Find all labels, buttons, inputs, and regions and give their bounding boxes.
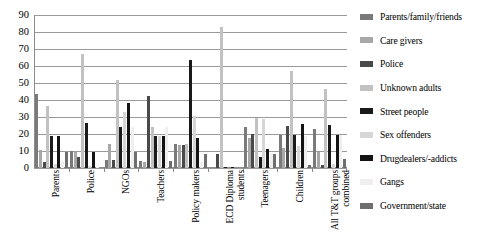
legend-label: Drugdealers/-addicts <box>380 153 457 164</box>
bar-group <box>312 15 347 168</box>
legend-swatch-icon <box>360 155 373 161</box>
x-axis-category-labels: ParentsPoliceNGOsTeachersPolicy makersEC… <box>34 168 347 251</box>
y-tick-label-10: 10 <box>19 146 30 156</box>
x-label-cell: Parents <box>34 168 69 251</box>
x-label-cell: Children <box>277 168 312 251</box>
legend-swatch-icon <box>360 85 373 91</box>
legend-item[interactable]: Unknown adults <box>360 76 494 100</box>
chart-container: 9080706050403020100 ParentsPoliceNGOsTea… <box>0 0 495 251</box>
legend-item[interactable]: Government/state <box>360 194 494 218</box>
x-label-cell: Policy makers <box>173 168 208 251</box>
bar <box>273 154 276 168</box>
x-axis-label: Parents <box>51 170 62 197</box>
bar <box>119 127 122 168</box>
legend-swatch-icon <box>360 61 373 67</box>
legend-item[interactable]: Gangs <box>360 170 494 194</box>
bar <box>57 136 60 168</box>
bar <box>74 152 77 168</box>
bar-group <box>34 15 69 168</box>
bar <box>196 138 199 168</box>
y-tick-label-40: 40 <box>19 95 30 105</box>
bar <box>324 89 327 168</box>
bar <box>85 123 88 168</box>
bar <box>174 144 177 168</box>
bar <box>70 151 73 168</box>
legend-item[interactable]: Drugdealers/-addicts <box>360 147 494 171</box>
bar <box>151 127 154 168</box>
bar <box>182 145 185 168</box>
bar <box>81 54 84 168</box>
bar <box>343 159 346 168</box>
bar <box>39 150 42 168</box>
x-axis-label: Policy makers <box>191 170 202 223</box>
bar <box>178 145 181 168</box>
legend-label: Parents/family/friends <box>380 11 462 22</box>
bar <box>304 136 307 168</box>
legend-label: Care givers <box>380 35 422 46</box>
x-label-cell: ECD Diploma students <box>208 168 243 251</box>
bar <box>220 27 223 168</box>
legend-label: Street people <box>380 106 428 117</box>
bar <box>147 96 150 168</box>
bar <box>158 136 161 168</box>
y-tick-label-60: 60 <box>19 61 30 71</box>
legend-swatch-icon <box>360 14 373 20</box>
bar <box>336 135 339 168</box>
bar <box>77 157 80 168</box>
y-tick-label-20: 20 <box>19 129 30 139</box>
legend-label: Sex offenders <box>380 129 431 140</box>
bar <box>165 127 168 168</box>
y-axis-tick-labels: 9080706050403020100 <box>0 15 32 168</box>
bar <box>282 148 285 168</box>
bar <box>154 136 157 168</box>
bar <box>116 80 119 168</box>
bar-groups <box>34 15 347 168</box>
x-axis-label: Teachers <box>156 170 167 203</box>
x-label-cell: Police <box>69 168 104 251</box>
bar <box>169 161 172 168</box>
bar <box>255 118 258 168</box>
x-axis-label: NGOs <box>121 170 132 194</box>
legend-label: Unknown adults <box>380 82 441 93</box>
y-tick-label-90: 90 <box>19 10 30 20</box>
legend-swatch-icon <box>360 203 373 209</box>
legend-label: Gangs <box>380 176 404 187</box>
x-label-cell: Teachers <box>138 168 173 251</box>
bar <box>162 136 165 168</box>
legend-item[interactable]: Sex offenders <box>360 123 494 147</box>
legend-item[interactable]: Care givers <box>360 29 494 53</box>
legend-swatch-icon <box>360 132 373 138</box>
legend-label: Police <box>380 58 403 69</box>
bar <box>123 112 126 168</box>
x-axis-label: All T&T groups combined <box>330 170 351 230</box>
bar <box>193 116 196 168</box>
bar-group <box>173 15 208 168</box>
bar <box>266 149 269 168</box>
bar <box>286 126 289 168</box>
bar <box>50 136 53 168</box>
bar <box>328 125 331 168</box>
legend-item[interactable]: Parents/family/friends <box>360 5 494 29</box>
bar <box>134 152 137 168</box>
bar <box>339 135 342 168</box>
x-label-cell: Teenagers <box>243 168 278 251</box>
bar-group <box>277 15 312 168</box>
bar <box>251 134 254 168</box>
bar <box>108 144 111 168</box>
x-axis-label: Police <box>86 170 97 193</box>
legend-item[interactable]: Police <box>360 52 494 76</box>
x-label-cell: NGOs <box>104 168 139 251</box>
y-tick-label-0: 0 <box>24 163 29 173</box>
bar <box>259 157 262 168</box>
legend-swatch-icon <box>360 108 373 114</box>
y-tick-label-70: 70 <box>19 44 30 54</box>
legend-swatch-icon <box>360 179 373 185</box>
bar <box>297 146 300 168</box>
bar <box>317 152 320 168</box>
bar <box>248 138 251 168</box>
legend-item[interactable]: Street people <box>360 99 494 123</box>
bar <box>313 129 316 168</box>
bar <box>105 160 108 168</box>
bar <box>279 135 282 168</box>
bar <box>127 103 130 168</box>
